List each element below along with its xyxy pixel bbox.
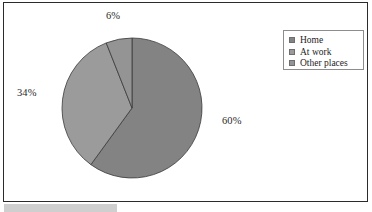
pie-chart-graphic (7, 5, 265, 205)
legend-swatch-icon (289, 49, 295, 55)
pie-label-home: 60% (222, 115, 242, 126)
chart-frame: 6% 34% 60% Home At work Other places (3, 2, 368, 202)
pie-label-at-work: 34% (17, 87, 37, 98)
bottom-gray-band (4, 204, 117, 212)
legend-item-home[interactable]: Home (289, 35, 363, 46)
pie-chart-screenshot: 6% 34% 60% Home At work Other places (0, 0, 372, 212)
pie-label-other-places: 6% (106, 10, 120, 21)
legend-label-at-work: At work (300, 47, 331, 57)
legend-swatch-icon (289, 37, 295, 43)
legend-label-home: Home (300, 35, 323, 45)
chart-legend: Home At work Other places (283, 30, 364, 70)
pie-plot-area: 6% 34% 60% (7, 5, 265, 205)
legend-item-other-places[interactable]: Other places (289, 58, 363, 69)
legend-label-other-places: Other places (300, 58, 348, 68)
legend-item-at-work[interactable]: At work (289, 47, 363, 58)
legend-swatch-icon (289, 60, 295, 66)
